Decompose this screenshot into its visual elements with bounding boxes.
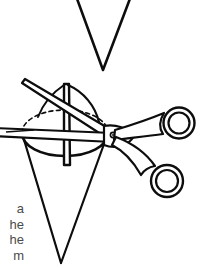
upper-cross-section-v — [76, 0, 131, 70]
caption-line: m — [0, 248, 26, 264]
geometry-figure — [0, 0, 202, 268]
scissor-shank-lower — [112, 137, 155, 175]
cutting-plane-sheet — [64, 84, 70, 165]
cross-section-outline — [76, 0, 131, 70]
scissor-ring-lower-inner — [156, 170, 178, 192]
caption: a he he m — [0, 201, 26, 263]
caption-line: he — [0, 217, 26, 233]
caption-line: a — [0, 201, 26, 217]
scissor-ring-upper-inner — [169, 113, 190, 134]
figure-page: a he he m — [0, 0, 202, 268]
scissors — [0, 79, 195, 197]
caption-line: he — [0, 232, 26, 248]
